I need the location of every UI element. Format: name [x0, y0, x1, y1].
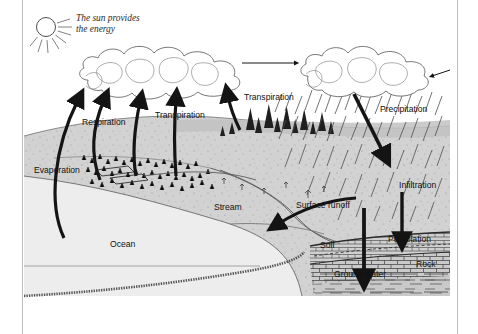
- label-ground-water: Ground water: [334, 269, 386, 279]
- label-transpiration-left: Transpiration: [155, 110, 205, 120]
- label-evaporation: Evaporation: [34, 165, 80, 175]
- label-rock: Rock: [416, 259, 436, 269]
- label-transpiration-right: Transpiration: [244, 92, 294, 102]
- page-left-rule: [22, 0, 23, 334]
- label-infiltration: Infiltration: [399, 180, 436, 190]
- label-respiration: Respiration: [82, 117, 126, 127]
- label-surface-runoff: Surface runoff: [296, 200, 350, 210]
- label-percolation: Percolation: [388, 234, 431, 244]
- sun-caption-line1: The sun provides: [76, 13, 140, 23]
- label-stream: Stream: [214, 202, 242, 212]
- label-ocean: Ocean: [110, 239, 136, 249]
- label-precipitation: Precipitation: [380, 104, 428, 114]
- label-soil: Soil: [320, 240, 334, 250]
- figure-page: The sun provides the energy Evaporation …: [0, 0, 478, 334]
- water-cycle-diagram: The sun provides the energy Evaporation …: [24, 8, 450, 313]
- page-right-rule: [457, 0, 458, 334]
- sun-caption-line2: the energy: [76, 24, 116, 34]
